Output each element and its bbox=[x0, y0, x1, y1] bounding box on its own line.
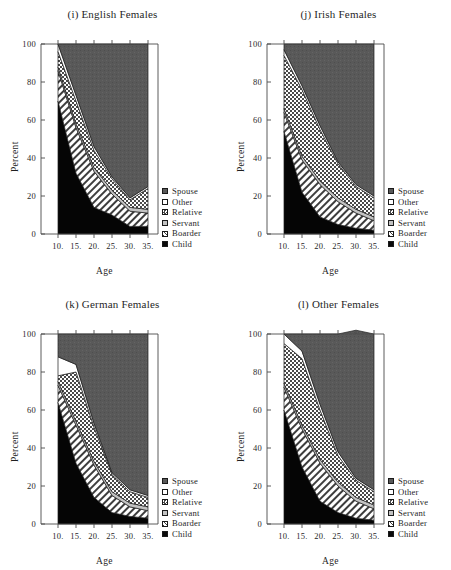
panel-other-females: (l) Other Females 02040608010010.15.20.2… bbox=[226, 290, 451, 570]
y-axis-ticks: 020406080100 bbox=[248, 329, 271, 529]
y-tick-label: 80 bbox=[253, 77, 262, 87]
legend-item-child: Child bbox=[388, 239, 428, 250]
legend-item-spouse: Spouse bbox=[162, 476, 202, 487]
legend-item-boarder: Boarder bbox=[162, 518, 202, 529]
legend-item-servant: Servant bbox=[388, 508, 428, 519]
legend-swatch-servant-icon bbox=[388, 220, 394, 226]
legend-label: Relative bbox=[172, 207, 202, 218]
y-axis-ticks: 020406080100 bbox=[248, 39, 271, 239]
legend: SpouseOtherRelativeServantBoarderChild bbox=[388, 186, 428, 250]
panel-title: (i) English Females bbox=[0, 8, 225, 20]
legend-item-other: Other bbox=[388, 487, 428, 498]
legend-swatch-other-icon bbox=[388, 489, 394, 495]
legend-item-boarder: Boarder bbox=[388, 518, 428, 529]
legend-swatch-servant-icon bbox=[162, 510, 168, 516]
legend: SpouseOtherRelativeServantBoarderChild bbox=[162, 476, 202, 540]
legend-label: Boarder bbox=[398, 228, 427, 239]
legend-swatch-servant-icon bbox=[162, 220, 168, 226]
x-tick-label: 15. bbox=[296, 531, 308, 541]
legend-swatch-relative-icon bbox=[162, 209, 168, 215]
legend-swatch-boarder-icon bbox=[388, 521, 394, 527]
y-tick-label: 40 bbox=[27, 153, 36, 163]
y-tick-label: 80 bbox=[27, 367, 36, 377]
x-tick-label: 15. bbox=[296, 241, 308, 251]
x-tick-label: 20. bbox=[88, 241, 100, 251]
x-tick-label: 25. bbox=[106, 241, 118, 251]
legend-swatch-child-icon bbox=[162, 241, 168, 247]
legend-swatch-spouse-icon bbox=[388, 478, 394, 484]
legend-label: Spouse bbox=[398, 476, 424, 487]
legend-label: Boarder bbox=[172, 518, 201, 529]
x-tick-label: 20. bbox=[314, 241, 326, 251]
y-tick-label: 0 bbox=[257, 519, 262, 529]
legend-label: Servant bbox=[398, 218, 426, 229]
legend-item-other: Other bbox=[388, 197, 428, 208]
legend-item-relative: Relative bbox=[388, 207, 428, 218]
x-tick-label: 30. bbox=[350, 531, 362, 541]
y-tick-label: 100 bbox=[22, 39, 36, 49]
y-tick-label: 20 bbox=[253, 191, 262, 201]
legend-swatch-child-icon bbox=[162, 531, 168, 537]
legend-item-spouse: Spouse bbox=[388, 186, 428, 197]
y-tick-label: 100 bbox=[248, 329, 262, 339]
legend-item-boarder: Boarder bbox=[162, 228, 202, 239]
y-axis-label: Percent bbox=[10, 431, 20, 462]
legend-label: Servant bbox=[172, 218, 200, 229]
legend-label: Relative bbox=[398, 497, 428, 508]
legend-label: Boarder bbox=[172, 228, 201, 239]
x-tick-label: 25. bbox=[332, 241, 344, 251]
y-tick-label: 100 bbox=[22, 329, 36, 339]
legend-item-relative: Relative bbox=[388, 497, 428, 508]
legend-label: Other bbox=[172, 487, 193, 498]
y-tick-label: 40 bbox=[27, 443, 36, 453]
legend-item-child: Child bbox=[162, 529, 202, 540]
x-tick-label: 30. bbox=[350, 241, 362, 251]
x-tick-label: 25. bbox=[106, 531, 118, 541]
legend-swatch-boarder-icon bbox=[388, 231, 394, 237]
legend-swatch-relative-icon bbox=[162, 499, 168, 505]
y-tick-label: 80 bbox=[253, 367, 262, 377]
legend-label: Spouse bbox=[398, 186, 424, 197]
x-tick-label: 15. bbox=[70, 241, 82, 251]
legend-label: Child bbox=[398, 529, 418, 540]
y-tick-label: 40 bbox=[253, 443, 262, 453]
x-tick-label: 10. bbox=[52, 531, 64, 541]
legend-swatch-other-icon bbox=[162, 489, 168, 495]
legend-label: Spouse bbox=[172, 186, 198, 197]
legend-item-servant: Servant bbox=[162, 218, 202, 229]
legend-swatch-relative-icon bbox=[388, 499, 394, 505]
legend-label: Spouse bbox=[172, 476, 198, 487]
legend-label: Servant bbox=[172, 508, 200, 519]
legend-item-relative: Relative bbox=[162, 207, 202, 218]
legend-item-other: Other bbox=[162, 197, 202, 208]
x-tick-label: 10. bbox=[52, 241, 64, 251]
x-axis-label: Age bbox=[322, 556, 339, 566]
y-tick-label: 0 bbox=[257, 229, 262, 239]
panel-title: (k) German Females bbox=[0, 298, 225, 310]
legend-swatch-child-icon bbox=[388, 241, 394, 247]
y-tick-label: 80 bbox=[27, 77, 36, 87]
legend-swatch-other-icon bbox=[388, 199, 394, 205]
x-tick-label: 10. bbox=[278, 531, 290, 541]
y-axis-label: Percent bbox=[10, 141, 20, 172]
legend-swatch-other-icon bbox=[162, 199, 168, 205]
legend-label: Relative bbox=[172, 497, 202, 508]
y-tick-label: 60 bbox=[27, 405, 36, 415]
legend-item-other: Other bbox=[162, 487, 202, 498]
y-axis-label: Percent bbox=[236, 431, 246, 462]
legend-item-child: Child bbox=[162, 239, 202, 250]
x-axis-label: Age bbox=[322, 266, 339, 276]
y-tick-label: 60 bbox=[253, 115, 262, 125]
legend-swatch-child-icon bbox=[388, 531, 394, 537]
y-tick-label: 100 bbox=[248, 39, 262, 49]
y-tick-label: 20 bbox=[253, 481, 262, 491]
legend-swatch-spouse-icon bbox=[162, 478, 168, 484]
y-tick-label: 0 bbox=[31, 229, 36, 239]
y-tick-label: 20 bbox=[27, 191, 36, 201]
legend-swatch-boarder-icon bbox=[162, 521, 168, 527]
legend-label: Child bbox=[172, 529, 192, 540]
x-tick-label: 10. bbox=[278, 241, 290, 251]
x-axis-label: Age bbox=[96, 266, 113, 276]
legend-label: Other bbox=[172, 197, 193, 208]
